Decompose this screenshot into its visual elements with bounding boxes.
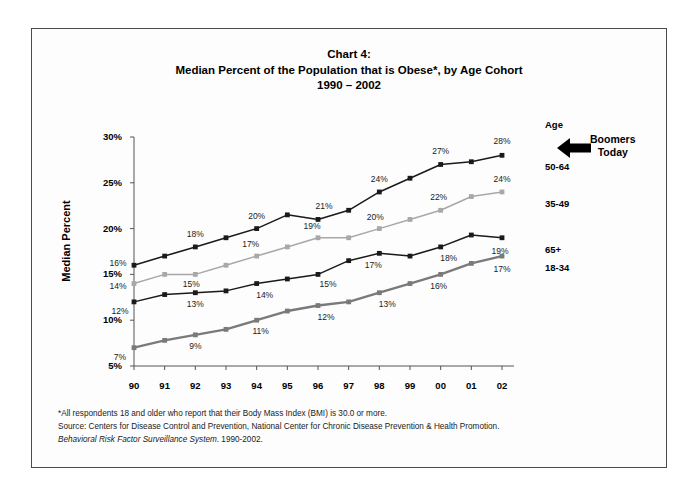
point-label-65+-90: 12% [111, 306, 128, 316]
point-label-65+-00: 18% [440, 253, 457, 263]
point-label-65+-92: 13% [187, 299, 204, 309]
point-label-18-34-94: 11% [252, 326, 268, 336]
footnote-line-1: *All respondents 18 and older who report… [58, 407, 499, 420]
point-label-50-64-96: 21% [315, 201, 332, 211]
point-label-50-64-00: 27% [432, 146, 449, 156]
legend-item-65+[interactable]: 65+ [545, 244, 561, 255]
point-label-18-34-98: 13% [379, 299, 396, 309]
footnote-source-italic: Behavioral Risk Factor Surveillance Syst… [58, 435, 217, 444]
point-label-18-34-00: 16% [430, 281, 447, 291]
point-label-50-64-90: 16% [109, 258, 126, 268]
point-label-50-64-02: 28% [493, 136, 510, 146]
point-label-35-49-98: 20% [367, 212, 384, 222]
point-label-65+-98: 17% [365, 260, 382, 270]
point-label-65+-02: 19% [491, 246, 508, 256]
point-label-35-49-96: 19% [303, 221, 320, 231]
point-label-50-64-94: 20% [248, 211, 265, 221]
point-label-50-64-92: 18% [187, 229, 204, 239]
legend-header: Age [545, 119, 563, 130]
point-label-65+-96: 15% [319, 279, 336, 289]
plot-area: Median Percent 30%25%20%15%10%5% 9091929… [32, 29, 668, 469]
annotation-line-1: Boomers [590, 133, 636, 146]
legend-item-35-49[interactable]: 35-49 [545, 198, 569, 209]
point-label-35-49-02: 24% [493, 174, 510, 184]
boomers-today-annotation: Boomers Today [590, 133, 636, 159]
legend-item-18-34[interactable]: 18-34 [545, 262, 569, 273]
point-label-18-34-90: 7% [114, 352, 126, 362]
point-label-35-49-90: 14% [109, 281, 126, 291]
line-chart-svg [32, 29, 668, 469]
point-label-50-64-98: 24% [371, 174, 388, 184]
point-label-35-49-00: 22% [430, 192, 447, 202]
point-label-65+-94: 14% [256, 290, 273, 300]
footnote-line-3: Behavioral Risk Factor Surveillance Syst… [58, 433, 499, 446]
left-arrow-icon [557, 137, 591, 163]
point-label-35-49-94: 17% [242, 239, 259, 249]
footnotes: *All respondents 18 and older who report… [58, 407, 499, 446]
slide-frame: Chart 4: Median Percent of the Populatio… [31, 28, 667, 468]
footnote-line-2: Source: Centers for Disease Control and … [58, 420, 499, 433]
footnote-source-rest: . 1990-2002. [217, 435, 263, 444]
point-label-18-34-02: 17% [493, 264, 510, 274]
point-label-35-49-92: 15% [183, 279, 200, 289]
point-label-18-34-96: 12% [317, 312, 334, 322]
annotation-line-2: Today [590, 146, 636, 159]
point-label-18-34-92: 9% [189, 341, 201, 351]
